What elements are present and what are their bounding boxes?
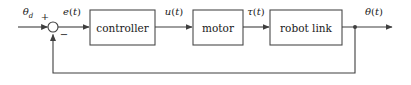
label-minus-sign: − (60, 29, 68, 40)
block-robot-link-label: robot link (280, 22, 332, 34)
label-plus-sign: + (41, 11, 49, 22)
summing-junction (48, 22, 58, 32)
label-control-signal: u(t) (165, 6, 183, 17)
block-motor-label: motor (202, 22, 235, 34)
block-diagram-canvas: controller motor robot link θd e(t) u(t)… (0, 0, 411, 85)
label-error-signal: e(t) (63, 6, 81, 17)
block-controller-label: controller (96, 22, 149, 34)
label-torque-signal: τ(t) (247, 6, 264, 17)
label-reference-signal: θd (23, 6, 34, 20)
control-loop-diagram: controller motor robot link θd e(t) u(t)… (0, 0, 411, 85)
label-output-signal: θ(t) (365, 6, 383, 17)
